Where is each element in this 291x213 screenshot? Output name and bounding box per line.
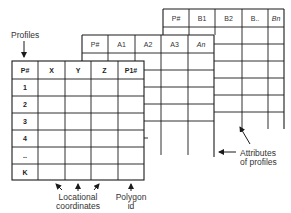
polygon-label-line2: id <box>128 201 135 211</box>
p-header-p: P# <box>21 67 30 74</box>
arrow-attr-b-icon <box>240 127 250 144</box>
arrow-x-icon <box>56 184 62 190</box>
p-header-x: X <box>49 67 54 74</box>
attributes-label-line2: of profiles <box>240 157 277 167</box>
row-id-1: 1 <box>23 84 27 91</box>
b-header-bdots: B.. <box>251 15 260 22</box>
row-id-4: 4 <box>23 135 27 142</box>
profiles-label: Profiles <box>11 30 39 40</box>
a-header-p: P# <box>91 41 100 48</box>
b-header-p: P# <box>172 15 181 22</box>
a-header-an: An <box>196 41 206 48</box>
locational-label-line2: coordinates <box>56 201 100 211</box>
arrow-z-icon <box>94 184 99 190</box>
p-header-y: Y <box>76 67 81 74</box>
row-id-3: 3 <box>23 118 27 125</box>
profile-tables-diagram: P# B1 B2 B.. Bn P# A1 A2 A3 An <box>0 0 291 213</box>
a-header-a3: A3 <box>170 41 179 48</box>
a-header-a2: A2 <box>144 41 153 48</box>
row-id-k: K <box>22 169 27 176</box>
b-header-b2: B2 <box>224 15 233 22</box>
b-header-b1: B1 <box>198 15 207 22</box>
b-header-bn: Bn <box>272 15 281 22</box>
p-header-p1: P1# <box>125 67 138 74</box>
profile-table: P# X Y Z P1# 1 2 3 4 .. K <box>12 61 144 180</box>
a-header-a1: A1 <box>117 41 126 48</box>
row-id-2: 2 <box>23 101 27 108</box>
row-id-dots: .. <box>23 152 27 159</box>
p-header-z: Z <box>102 67 107 74</box>
